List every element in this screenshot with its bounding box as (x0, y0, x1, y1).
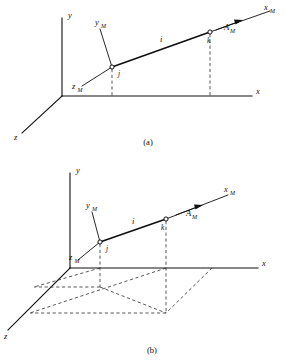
panel-b-caption: (b) (147, 345, 157, 355)
member-xm-axis-label-b: x M (223, 184, 236, 196)
svg-text:M: M (269, 8, 276, 14)
node-k-label-b: k (161, 223, 165, 232)
global-z-axis-line-a (22, 96, 62, 133)
node-j-label-b: j (105, 244, 108, 253)
node-j-marker-a (110, 65, 114, 69)
panel-a-caption: (a) (143, 137, 153, 147)
node-j-label-a: j (117, 69, 120, 78)
global-z-axis-label-a: z (13, 132, 18, 142)
projection-edge-plane-far-b (166, 268, 212, 313)
member-zm-axis-line-a (82, 67, 112, 86)
svg-text:M: M (229, 28, 236, 34)
svg-text:x: x (263, 2, 268, 12)
svg-text:z: z (71, 81, 76, 91)
node-k-marker-a (208, 30, 212, 34)
member-ym-axis-label-b: y M (85, 200, 98, 212)
figure-root: y x z x M y M z M A M i (0, 0, 286, 362)
node-k-marker-b (164, 217, 168, 221)
panel-a: y x z x M y M z M A M i (0, 0, 286, 150)
svg-text:A: A (185, 208, 192, 218)
svg-text:x: x (223, 184, 228, 194)
global-x-axis-label-a: x (255, 86, 260, 96)
global-z-axis-line-b (8, 268, 70, 330)
vector-am-arrowhead-a (234, 20, 243, 25)
projected-member-line-b (100, 287, 166, 313)
member-zm-axis-line-b (78, 242, 100, 260)
svg-text:y: y (85, 200, 90, 210)
node-j-marker-b (98, 240, 102, 244)
svg-text:M: M (77, 87, 84, 93)
svg-text:y: y (94, 17, 99, 27)
svg-text:M: M (229, 190, 236, 196)
projection-edge-x-to-k-b (30, 268, 166, 313)
global-z-axis-label-b: z (3, 331, 8, 341)
member-ym-axis-label-a: y M (94, 17, 107, 29)
member-ym-axis-line-b (92, 212, 100, 242)
panel-b-diagram: y x z x M y M z M A M i (0, 150, 286, 362)
member-label-b: i (132, 216, 135, 226)
panel-a-diagram: y x z x M y M z M A M i (0, 0, 286, 150)
global-x-axis-label-b: x (261, 258, 266, 268)
vector-am-label-b: A M (185, 208, 198, 220)
global-y-axis-label-a: y (67, 10, 72, 20)
panel-b: y x z x M y M z M A M i (0, 150, 286, 362)
svg-text:M: M (191, 214, 198, 220)
svg-text:M: M (91, 206, 98, 212)
member-ym-axis-line-a (100, 29, 112, 67)
global-y-axis-label-b: y (75, 165, 80, 175)
svg-text:M: M (74, 258, 81, 264)
svg-text:z: z (68, 252, 73, 262)
member-label-a: i (160, 34, 163, 44)
vector-am-arrowhead-b (194, 205, 203, 210)
svg-text:A: A (223, 22, 230, 32)
member-zm-axis-label-a: z M (71, 81, 84, 93)
member-xm-axis-label-a: x M (263, 2, 276, 14)
svg-text:M: M (100, 23, 107, 29)
